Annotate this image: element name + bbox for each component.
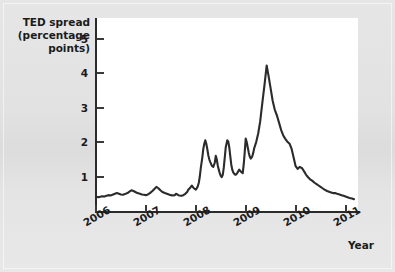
y-tick-mark [97, 107, 104, 109]
y-axis-line [95, 18, 97, 213]
chart-figure: TED spread (percentage points) 12345 200… [0, 0, 395, 272]
y-tick-label: 5 [68, 34, 88, 44]
y-tick-mark [97, 176, 104, 178]
x-axis-line [95, 211, 360, 213]
y-axis-title-line-3: points) [6, 42, 90, 55]
plot-area [96, 18, 358, 211]
y-axis-title-line-1: TED spread [6, 16, 90, 29]
y-tick-label: 4 [68, 68, 88, 78]
x-axis-title: Year [348, 239, 374, 251]
y-tick-label: 2 [68, 137, 88, 147]
y-tick-label: 1 [68, 172, 88, 182]
y-tick-mark [97, 141, 104, 143]
y-tick-label: 3 [68, 103, 88, 113]
ted-spread-line-series [96, 18, 358, 211]
y-tick-mark [97, 72, 104, 74]
y-tick-mark [97, 38, 104, 40]
